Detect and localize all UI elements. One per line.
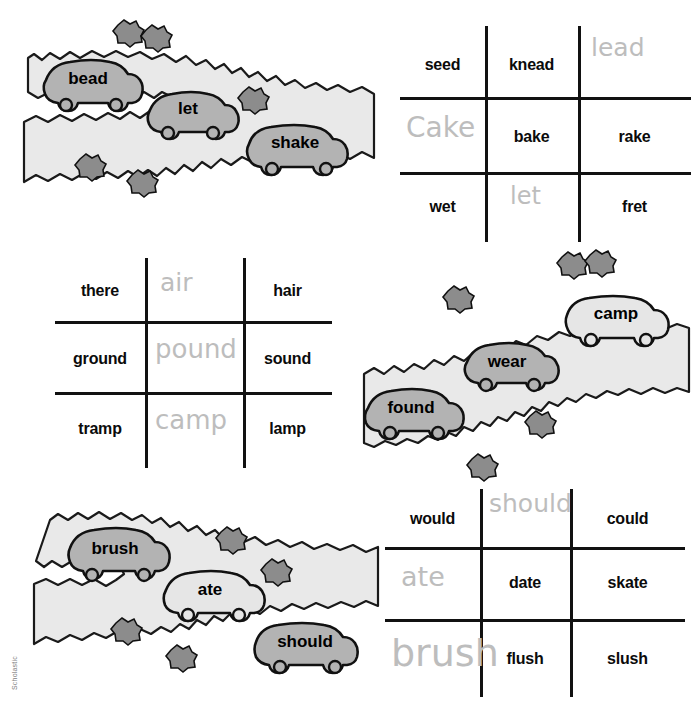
grid-cell-handwritten[interactable]: lead xyxy=(591,33,645,62)
scene-top-left: bead let shake xyxy=(10,18,380,243)
grid-cell[interactable]: skate xyxy=(570,561,685,605)
grid-cell[interactable]: seed xyxy=(400,40,485,90)
grid-cell[interactable]: fret xyxy=(578,184,691,230)
grid-hline xyxy=(55,321,332,324)
grid-cell[interactable]: sound xyxy=(243,336,332,382)
car-camp: camp xyxy=(566,296,669,346)
grid-vline xyxy=(145,258,148,468)
grid-hline xyxy=(385,619,685,622)
car-label: brush xyxy=(91,539,138,558)
car-label: bead xyxy=(68,69,108,88)
car-label: let xyxy=(178,99,198,118)
car-label: ate xyxy=(198,580,223,599)
car-label: shake xyxy=(271,133,319,152)
grid-cell[interactable]: ground xyxy=(55,336,145,382)
grid-cell-handwritten[interactable]: Cake xyxy=(406,111,475,144)
grid-cell[interactable]: tramp xyxy=(55,406,145,452)
car-label: should xyxy=(277,632,333,651)
grid-cell[interactable]: knead xyxy=(485,40,578,90)
publisher-credit: Scholastic xyxy=(11,656,18,690)
grid-cell[interactable]: date xyxy=(480,561,570,605)
grid-cell[interactable]: there xyxy=(55,268,145,314)
car-label: wear xyxy=(487,352,527,371)
grid-cell[interactable]: slush xyxy=(570,637,685,681)
grid-cell-handwritten[interactable]: camp xyxy=(155,405,227,435)
car-label: camp xyxy=(594,304,638,323)
grid-cell[interactable]: bake xyxy=(485,112,578,162)
grid-cell[interactable]: rake xyxy=(578,112,691,162)
scene-middle-right: found wear camp xyxy=(362,252,691,502)
worksheet-page: bead let shake xyxy=(0,0,691,725)
grid-cell-handwritten[interactable]: pound xyxy=(155,334,237,364)
scene-bottom-left: brush ate should xyxy=(28,498,380,720)
grid-bottom-right: would should could ate date skate brush … xyxy=(385,489,685,697)
grid-hline xyxy=(385,547,685,550)
grid-cell-handwritten[interactable]: ate xyxy=(401,561,445,592)
grid-cell[interactable]: hair xyxy=(243,268,332,314)
grid-cell[interactable]: flush xyxy=(480,637,570,681)
grid-hline xyxy=(55,392,332,395)
grid-cell-handwritten[interactable]: should xyxy=(489,489,572,518)
grid-cell[interactable]: lamp xyxy=(243,406,332,452)
grid-cell[interactable]: wet xyxy=(400,184,485,230)
grid-cell[interactable]: would xyxy=(385,497,480,541)
car-should: should xyxy=(255,623,358,673)
car-label: found xyxy=(387,398,434,417)
grid-hline xyxy=(400,172,691,175)
grid-middle-left: there air hair ground pound sound tramp … xyxy=(55,258,332,468)
grid-cell[interactable]: could xyxy=(570,497,685,541)
grid-top-right: seed knead lead Cake bake rake wet let f… xyxy=(400,26,691,242)
grid-hline xyxy=(400,97,691,100)
grid-cell-handwritten[interactable]: air xyxy=(160,268,193,297)
grid-cell-handwritten[interactable]: let xyxy=(510,182,541,210)
